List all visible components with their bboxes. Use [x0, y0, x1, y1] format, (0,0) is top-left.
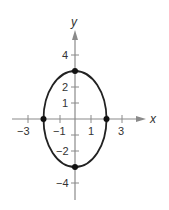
y-tick-label-1: 1 [62, 97, 68, 109]
point-right [104, 116, 110, 122]
x-tick-label-neg1: −1 [53, 125, 66, 137]
x-tick-label-3: 3 [118, 125, 124, 137]
point-left [41, 116, 47, 122]
x-axis [12, 116, 146, 122]
x-tick-label-neg3: −3 [17, 125, 30, 137]
point-top [72, 68, 78, 74]
y-tick-label-4: 4 [62, 49, 68, 61]
y-tick-label-neg2: −2 [56, 145, 69, 157]
x-axis-label: x [149, 112, 157, 126]
x-tick-label-1: 1 [88, 125, 94, 137]
y-tick-label-neg4: −4 [56, 177, 69, 189]
ellipse-graph: x y −3 −1 1 3 4 2 1 −2 −4 [0, 0, 169, 210]
y-tick-label-2: 2 [62, 81, 68, 93]
x-axis-arrow-icon [136, 116, 146, 122]
point-bottom [72, 164, 78, 170]
y-axis-arrow-icon [72, 30, 78, 40]
y-axis-label: y [70, 15, 78, 29]
